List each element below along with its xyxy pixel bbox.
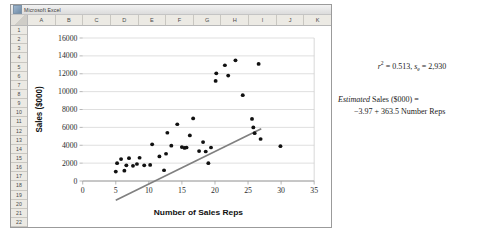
screenshot-root: Microsoft Excel ABCDEFGHIJK 123456789101… — [0, 0, 488, 234]
data-point — [257, 62, 261, 66]
window-title: Microsoft Excel — [24, 5, 61, 15]
regression-equation: Estimated Sales ($000) = −3.97 + 363.5 N… — [338, 94, 486, 117]
column-header-a[interactable]: A — [28, 15, 56, 25]
r-squared-value: = 0.513, — [384, 62, 415, 71]
ytick-label-2000: 2000 — [62, 159, 78, 168]
data-point — [201, 140, 205, 144]
data-point — [115, 161, 119, 165]
xtick-label-5: 5 — [114, 186, 118, 195]
row-header-13[interactable]: 13 — [11, 136, 27, 145]
data-point — [234, 58, 238, 62]
row-header-4[interactable]: 4 — [11, 53, 27, 62]
data-point — [209, 146, 213, 150]
equation-line-2: −3.97 + 363.5 Number Reps — [338, 106, 486, 118]
data-point — [175, 122, 179, 126]
data-point — [250, 117, 254, 121]
row-header-gutter: 12345678910111213141516171819202122 — [11, 26, 28, 227]
row-header-19[interactable]: 19 — [11, 191, 27, 200]
data-point — [241, 93, 245, 97]
xtick-label-0: 0 — [81, 186, 85, 195]
excel-window: Microsoft Excel ABCDEFGHIJK 123456789101… — [10, 4, 332, 228]
data-point — [223, 63, 227, 67]
data-point — [191, 117, 195, 121]
column-header-e[interactable]: E — [139, 15, 167, 25]
column-header-c[interactable]: C — [83, 15, 111, 25]
row-header-11[interactable]: 11 — [11, 117, 27, 126]
row-header-7[interactable]: 7 — [11, 81, 27, 90]
ytick-label-4000: 4000 — [62, 141, 78, 150]
y-axis-title: Sales ($000) — [35, 86, 44, 132]
data-point — [122, 169, 126, 173]
worksheet-area[interactable]: 0200040006000800010000120001400016000051… — [28, 26, 331, 227]
regression-statistics: r2 = 0.513, se = 2,930 Estimated Sales (… — [338, 60, 486, 117]
data-point — [188, 134, 192, 138]
equation-line-1-rest: Sales ($000) = — [370, 95, 419, 104]
row-header-22[interactable]: 22 — [11, 218, 27, 227]
row-header-12[interactable]: 12 — [11, 127, 27, 136]
row-header-21[interactable]: 21 — [11, 209, 27, 218]
ytick-label-16000: 16000 — [58, 34, 78, 43]
column-header-g[interactable]: G — [194, 15, 222, 25]
row-header-18[interactable]: 18 — [11, 181, 27, 190]
data-point — [142, 164, 146, 168]
row-header-5[interactable]: 5 — [11, 63, 27, 72]
data-point — [127, 156, 131, 160]
column-header-j[interactable]: J — [277, 15, 305, 25]
row-header-3[interactable]: 3 — [11, 44, 27, 53]
title-bar: Microsoft Excel — [11, 5, 331, 15]
row-header-1[interactable]: 1 — [11, 26, 27, 35]
data-point — [197, 149, 201, 153]
ytick-label-10000: 10000 — [58, 87, 78, 96]
ytick-label-14000: 14000 — [58, 52, 78, 61]
data-point — [214, 71, 218, 75]
data-point — [251, 126, 255, 130]
data-point — [206, 161, 210, 165]
column-header-b[interactable]: B — [56, 15, 84, 25]
ytick-label-6000: 6000 — [62, 123, 78, 132]
column-header-k[interactable]: K — [304, 15, 331, 25]
ytick-label-12000: 12000 — [58, 70, 78, 79]
row-header-9[interactable]: 9 — [11, 99, 27, 108]
data-point — [214, 79, 218, 83]
data-point — [148, 163, 152, 167]
ytick-label-0: 0 — [74, 177, 78, 186]
xtick-label-35: 35 — [310, 186, 318, 195]
row-header-6[interactable]: 6 — [11, 72, 27, 81]
estimated-word: Estimated — [338, 95, 370, 104]
row-header-16[interactable]: 16 — [11, 163, 27, 172]
data-point — [204, 150, 208, 154]
column-header-f[interactable]: F — [166, 15, 194, 25]
row-header-10[interactable]: 10 — [11, 108, 27, 117]
se-value: = 2,930 — [420, 62, 447, 71]
column-header-d[interactable]: D — [111, 15, 139, 25]
row-header-8[interactable]: 8 — [11, 90, 27, 99]
data-point — [259, 137, 263, 141]
xtick-label-10: 10 — [145, 186, 153, 195]
data-point — [253, 131, 257, 135]
excel-icon — [13, 5, 22, 14]
data-point — [135, 162, 139, 166]
row-header-20[interactable]: 20 — [11, 200, 27, 209]
xtick-label-15: 15 — [178, 186, 186, 195]
sheet-body: 12345678910111213141516171819202122 0200… — [11, 26, 331, 227]
row-header-14[interactable]: 14 — [11, 145, 27, 154]
data-point — [124, 164, 128, 168]
data-point — [278, 144, 282, 148]
row-header-2[interactable]: 2 — [11, 35, 27, 44]
column-header-h[interactable]: H — [221, 15, 249, 25]
row-header-15[interactable]: 15 — [11, 154, 27, 163]
column-header-i[interactable]: I — [249, 15, 277, 25]
data-point — [150, 143, 154, 147]
xtick-label-20: 20 — [211, 186, 219, 195]
scatter-chart[interactable]: 0200040006000800010000120001400016000051… — [28, 26, 331, 227]
xtick-label-30: 30 — [277, 186, 285, 195]
data-point — [114, 170, 118, 174]
ytick-label-8000: 8000 — [62, 105, 78, 114]
data-point — [119, 157, 123, 161]
xtick-label-25: 25 — [244, 186, 252, 195]
data-point — [131, 164, 135, 168]
select-all-corner[interactable] — [11, 15, 28, 25]
equation-line-1: Estimated Sales ($000) = — [338, 94, 486, 106]
data-point — [226, 74, 230, 78]
row-header-17[interactable]: 17 — [11, 172, 27, 181]
